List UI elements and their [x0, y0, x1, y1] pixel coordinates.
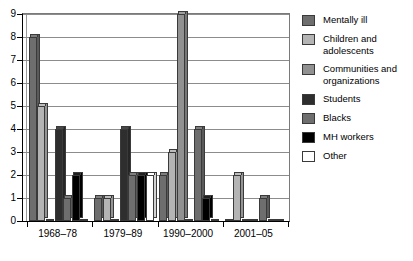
plot-frame: [22, 13, 290, 222]
bar-side-3d: [111, 195, 114, 218]
bar-top-3d: [104, 195, 112, 198]
bar: [242, 220, 250, 222]
bar-face: [202, 198, 210, 221]
legend-item: Other: [302, 150, 413, 162]
y-axis-tick-label: 0: [10, 216, 16, 226]
legend-item: Mentally ill: [302, 14, 413, 26]
bar-face: [276, 219, 284, 221]
bar: [259, 198, 267, 221]
bar-face: [37, 106, 45, 221]
bar-side-3d: [45, 103, 48, 218]
legend-label: Mentally ill: [323, 14, 367, 26]
x-axis-tick-marks: [22, 222, 290, 227]
bar-face: [137, 175, 145, 221]
bar-top-3d: [56, 126, 64, 129]
y-axis-tick-label: 1: [10, 193, 16, 203]
bar-face: [250, 219, 258, 221]
bar-face: [159, 175, 167, 221]
bar-side-3d: [80, 172, 83, 218]
bar-side-3d: [185, 11, 188, 218]
legend-swatch: [302, 94, 315, 105]
bar-side-3d: [267, 195, 270, 218]
bar: [194, 129, 202, 221]
x-axis-tick-mark: [92, 222, 93, 227]
bar-top-3d: [234, 172, 242, 175]
legend-swatch: [302, 34, 315, 45]
legend-swatch: [302, 113, 315, 124]
chart-legend: Mentally illChildren and adolescentsComm…: [302, 14, 413, 169]
bar-face: [168, 152, 176, 221]
bar-top-3d: [121, 126, 129, 129]
bar-face: [63, 198, 71, 221]
bar-face: [80, 219, 88, 221]
legend-label: Children and adolescents: [323, 33, 409, 56]
bar: [120, 129, 128, 221]
bar: [225, 220, 233, 222]
bar: [137, 175, 145, 221]
legend-label: Students: [323, 93, 361, 105]
bar-face: [177, 14, 185, 221]
bar-top-3d: [38, 103, 46, 106]
bar: [211, 220, 219, 222]
bar: [80, 220, 88, 222]
bar-face: [94, 198, 102, 221]
bar: [177, 14, 185, 221]
legend-item: Students: [302, 93, 413, 105]
legend-swatch: [302, 64, 315, 75]
bar: [233, 175, 241, 221]
bar-face: [225, 219, 233, 221]
bar: [37, 106, 45, 221]
bar: [103, 198, 111, 221]
bar-face: [211, 219, 219, 221]
legend-item: Communities and organizations: [302, 63, 413, 86]
bar-face: [194, 129, 202, 221]
bar-top-3d: [203, 195, 211, 198]
bar: [202, 198, 210, 221]
bar-top-3d: [260, 195, 268, 198]
y-axis-tick-label: 9: [10, 9, 16, 19]
y-axis-tick-labels: 0123456789: [0, 13, 16, 222]
bar-face: [46, 219, 54, 221]
bar-face: [120, 129, 128, 221]
bar-face: [268, 219, 276, 221]
x-axis-category-label: 1968–78: [38, 228, 77, 240]
bar-top-3d: [73, 172, 81, 175]
bar: [268, 220, 276, 222]
bar: [29, 37, 37, 221]
legend-item: Children and adolescents: [302, 33, 413, 56]
legend-label: Communities and organizations: [323, 63, 409, 86]
bar-face: [146, 175, 154, 221]
bar: [55, 129, 63, 221]
x-axis-tick-mark: [288, 222, 289, 227]
bar: [168, 152, 176, 221]
bar: [250, 220, 258, 222]
bar-chart-figure: 0123456789 1968–781979–891990–20002001–0…: [0, 0, 413, 261]
x-axis-category-label: 1979–89: [103, 228, 142, 240]
bar: [276, 220, 284, 222]
bar-side-3d: [241, 172, 244, 218]
x-axis-category-label: 1990–2000: [163, 228, 213, 240]
bar: [128, 175, 136, 221]
bar-face: [185, 219, 193, 221]
y-axis-tick-label: 6: [10, 78, 16, 88]
bar-face: [233, 175, 241, 221]
bar-top-3d: [147, 172, 155, 175]
bar-face: [111, 219, 119, 221]
bar: [63, 198, 71, 221]
bar-face: [128, 175, 136, 221]
bar-face: [29, 37, 37, 221]
y-axis-tick-label: 4: [10, 124, 16, 134]
bar-face: [103, 198, 111, 221]
bar: [111, 220, 119, 222]
bar: [159, 175, 167, 221]
bar-side-3d: [154, 172, 157, 218]
y-axis-tick-label: 3: [10, 147, 16, 157]
bar-top-3d: [30, 34, 38, 37]
x-axis-tick-mark: [27, 222, 28, 227]
x-axis-tick-mark: [223, 222, 224, 227]
y-axis-tick-label: 5: [10, 101, 16, 111]
legend-label: MH workers: [323, 131, 374, 143]
bar-side-3d: [210, 195, 213, 218]
legend-item: MH workers: [302, 131, 413, 143]
x-axis-tick-labels: 1968–781979–891990–20002001–05: [22, 228, 290, 244]
